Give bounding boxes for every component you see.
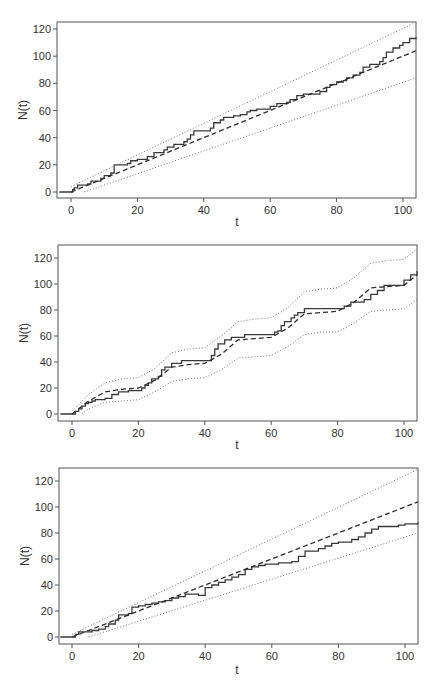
mean-dashed-line (71, 51, 416, 192)
x-tick-label: 40 (198, 204, 210, 216)
x-tick-label: 100 (395, 427, 413, 439)
y-axis: 020406080100120 (33, 23, 57, 198)
y-tick-label: 0 (47, 631, 53, 643)
observed-step-line (59, 37, 416, 192)
y-axis-title: N(t) (18, 546, 32, 566)
y-tick-label: 100 (33, 50, 51, 62)
x-axis-title: t (235, 438, 239, 452)
y-axis-title: N(t) (17, 323, 31, 343)
y-tick-label: 100 (35, 501, 53, 513)
y-axis: 020406080100120 (35, 475, 59, 643)
x-tick-label: 0 (69, 427, 75, 439)
y-tick-label: 80 (41, 527, 53, 539)
series-layer (60, 469, 418, 637)
x-tick-label: 20 (132, 427, 144, 439)
upper-bound-dotted-line (72, 249, 417, 412)
y-tick-label: 20 (41, 605, 53, 617)
panel-2: 020406080100120 020406080100 N(t) t (17, 245, 417, 452)
x-tick-label: 100 (396, 650, 414, 662)
x-axis-title: t (235, 215, 239, 229)
y-tick-label: 120 (35, 475, 53, 487)
lower-bound-dotted-line (84, 78, 416, 192)
x-tick-label: 0 (69, 650, 75, 662)
series-layer (60, 249, 417, 414)
lower-bound-dotted-line (82, 300, 417, 414)
y-tick-label: 0 (45, 186, 51, 198)
y-tick-label: 100 (34, 278, 52, 290)
y-axis: 020406080100120 (34, 252, 58, 420)
y-tick-label: 120 (34, 252, 52, 264)
x-axis: 020406080100 (69, 421, 413, 439)
upper-bound-dotted-line (72, 469, 418, 634)
y-tick-label: 0 (46, 408, 52, 420)
y-tick-label: 20 (39, 159, 51, 171)
x-tick-label: 60 (265, 427, 277, 439)
upper-bound-dotted-line (71, 22, 416, 186)
observed-step-line (60, 271, 417, 414)
mean-dashed-line (72, 502, 418, 637)
x-tick-label: 60 (264, 204, 276, 216)
x-axis: 020406080100 (68, 198, 412, 216)
y-tick-label: 80 (39, 77, 51, 89)
lower-bound-dotted-line (89, 533, 418, 637)
observed-step-line (60, 523, 418, 637)
x-tick-label: 60 (266, 650, 278, 662)
y-tick-label: 40 (41, 579, 53, 591)
x-tick-label: 0 (68, 204, 74, 216)
y-tick-label: 120 (33, 23, 51, 35)
x-tick-label: 100 (394, 204, 412, 216)
y-tick-label: 80 (40, 304, 52, 316)
y-tick-label: 20 (40, 382, 52, 394)
y-tick-label: 60 (39, 105, 51, 117)
x-tick-label: 40 (199, 427, 211, 439)
plot-frame (57, 22, 416, 198)
x-tick-label: 80 (332, 650, 344, 662)
panel-1: 020406080100120 020406080100 N(t) t (16, 22, 416, 229)
y-tick-label: 40 (39, 132, 51, 144)
x-tick-label: 80 (330, 204, 342, 216)
x-tick-label: 40 (199, 650, 211, 662)
panel-3: 020406080100120 020406080100 N(t) t (18, 468, 418, 677)
x-tick-label: 20 (131, 204, 143, 216)
x-tick-label: 20 (132, 650, 144, 662)
mean-dashed-line (72, 275, 417, 414)
y-tick-label: 60 (40, 330, 52, 342)
series-layer (59, 22, 416, 192)
figure: 020406080100120 020406080100 N(t) t 0204… (0, 0, 439, 691)
y-axis-title: N(t) (16, 100, 30, 120)
x-tick-label: 80 (331, 427, 343, 439)
y-tick-label: 60 (41, 553, 53, 565)
plot-frame (59, 468, 418, 644)
x-axis-title: t (235, 663, 239, 677)
x-axis: 020406080100 (69, 644, 414, 662)
y-tick-label: 40 (40, 356, 52, 368)
